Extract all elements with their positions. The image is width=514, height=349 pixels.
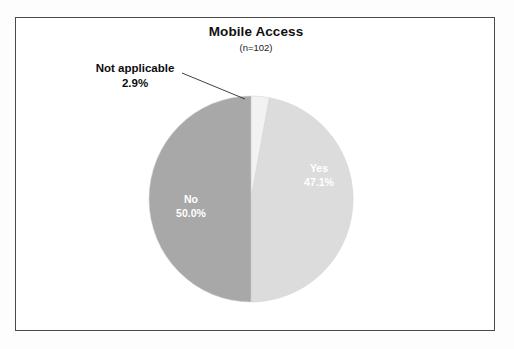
pie-label-yes-value: 47.1% — [304, 176, 334, 188]
chart-frame: Mobile Access (n=102) Yes 47.1% No 50.0%… — [15, 17, 495, 331]
pie-label-not-applicable-value: 2.9% — [122, 77, 148, 89]
pie-label-no-name: No — [184, 193, 198, 205]
leader-line-not-applicable — [182, 73, 245, 99]
pie-label-no-value: 50.0% — [176, 207, 206, 219]
pie-chart: Yes 47.1% No 50.0% Not applicable 2.9% — [16, 18, 496, 332]
pie-slice-no[interactable] — [149, 96, 251, 302]
pie-slice-yes[interactable] — [251, 98, 353, 302]
pie-label-not-applicable-name: Not applicable — [96, 62, 175, 74]
page-background: Mobile Access (n=102) Yes 47.1% No 50.0%… — [0, 0, 514, 349]
pie-label-yes-name: Yes — [310, 162, 328, 174]
